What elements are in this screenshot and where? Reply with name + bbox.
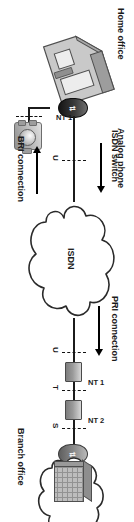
bri-u-reference-dash (62, 160, 86, 161)
bri-connection-arrow-head (34, 146, 42, 153)
building-window-grid (55, 467, 83, 501)
isdn-switch-arrow-head (98, 186, 106, 193)
label-ref-u-pri: U (50, 347, 60, 353)
pri-connection-arrow-head (96, 349, 104, 356)
label-ref-u-bri: U (50, 155, 60, 161)
pri-connection-arrow-line (99, 306, 101, 350)
label-isdn-switch: ISDN switch (110, 130, 120, 182)
label-isdn-cloud: ISDN (66, 248, 76, 270)
phone-tab-left2 (18, 120, 26, 126)
bri-connection-arrow-line (37, 152, 39, 194)
label-home-office: Home office (116, 8, 126, 60)
nt1-branch-block (65, 362, 82, 382)
phone-reference-dash (16, 116, 42, 117)
label-nt1-branch: NT 1 (88, 378, 104, 388)
router-glyph: ⇄ (70, 103, 77, 112)
label-bri-connection: BRI connection (16, 136, 26, 202)
phone-tab-left (29, 120, 37, 126)
home-office-house-icon (40, 30, 112, 108)
phone-link-line (28, 107, 50, 109)
isdn-switch-arrow-line (101, 143, 103, 187)
branch-building-face (54, 466, 84, 502)
pri-s-reference-dash (62, 428, 86, 429)
label-branch-office: Branch office (16, 428, 26, 486)
label-ref-t-pri: T (50, 385, 60, 390)
nt2-branch-block (65, 400, 82, 420)
label-nt2-branch: NT 2 (88, 416, 104, 426)
pri-t-reference-dash (62, 390, 86, 391)
label-nt1-home: NT 1 (56, 113, 72, 123)
label-ref-s-pri: S (50, 423, 60, 428)
label-pri-connection: PRI connection (110, 296, 120, 362)
bri-trunk-line (73, 116, 75, 202)
pri-u-reference-dash (62, 352, 86, 353)
